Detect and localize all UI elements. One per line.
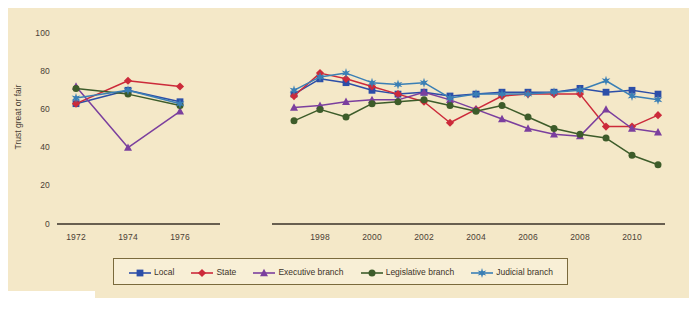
x-tick-label: 2010 (612, 232, 652, 242)
y-tick-label: 20 (18, 180, 50, 190)
y-tick-label: 80 (18, 66, 50, 76)
data-point-marker (137, 269, 144, 276)
data-point-marker (124, 77, 132, 85)
data-point-marker (368, 269, 375, 276)
data-point-marker (654, 111, 662, 119)
series-executive-branch (72, 82, 662, 151)
y-tick-label: 60 (18, 104, 50, 114)
data-point-marker (551, 125, 558, 132)
x-tick-label: 2008 (560, 232, 600, 242)
x-tick-label: 1974 (108, 232, 148, 242)
data-point-marker (603, 89, 610, 96)
data-point-marker (577, 131, 584, 138)
data-point-marker (176, 82, 184, 90)
x-tick-label: 2000 (352, 232, 392, 242)
data-point-marker (603, 135, 610, 142)
data-point-marker (343, 114, 350, 121)
data-point-marker (655, 161, 662, 168)
circle-marker-icon (360, 267, 382, 277)
y-tick-label: 0 (18, 219, 50, 229)
legend-label: State (216, 267, 236, 277)
y-tick-label: 40 (18, 142, 50, 152)
x-tick-label: 2006 (508, 232, 548, 242)
x-tick-label: 2004 (456, 232, 496, 242)
y-tick-label: 100 (18, 28, 50, 38)
square-marker-icon (128, 267, 150, 277)
data-point-marker (317, 106, 324, 113)
legend-label: Legislative branch (386, 267, 455, 277)
x-tick-label: 1998 (300, 232, 340, 242)
x-tick-label: 1976 (160, 232, 200, 242)
data-point-marker (198, 268, 206, 276)
data-point-marker (73, 85, 80, 92)
data-point-marker (421, 96, 428, 103)
legend-item-state[interactable]: State (190, 267, 236, 277)
data-point-marker (291, 117, 298, 124)
data-point-marker (602, 105, 610, 112)
legend-label: Local (154, 267, 174, 277)
x-tick-label: 1972 (56, 232, 96, 242)
legend-item-legislative-branch[interactable]: Legislative branch (360, 267, 455, 277)
data-point-marker (602, 76, 611, 86)
legend-label: Judicial branch (496, 267, 553, 277)
legend-item-local[interactable]: Local (128, 267, 174, 277)
chart-legend: LocalStateExecutive branchLegislative br… (113, 258, 568, 285)
legend-label: Executive branch (278, 267, 343, 277)
triangle-marker-icon (252, 267, 274, 277)
diamond-marker-icon (190, 267, 212, 277)
x-tick-label: 2002 (404, 232, 444, 242)
data-point-marker (499, 102, 506, 109)
data-point-marker (395, 98, 402, 105)
star-marker-icon (470, 267, 492, 277)
data-point-marker (447, 102, 454, 109)
chart-figure: Trust great or fair 100806040200 1972197… (0, 0, 689, 313)
legend-item-executive-branch[interactable]: Executive branch (252, 267, 343, 277)
data-point-marker (473, 108, 480, 115)
data-point-marker (629, 152, 636, 159)
data-point-marker (525, 114, 532, 121)
legend-item-judicial-branch[interactable]: Judicial branch (470, 267, 553, 277)
data-point-marker (369, 100, 376, 107)
